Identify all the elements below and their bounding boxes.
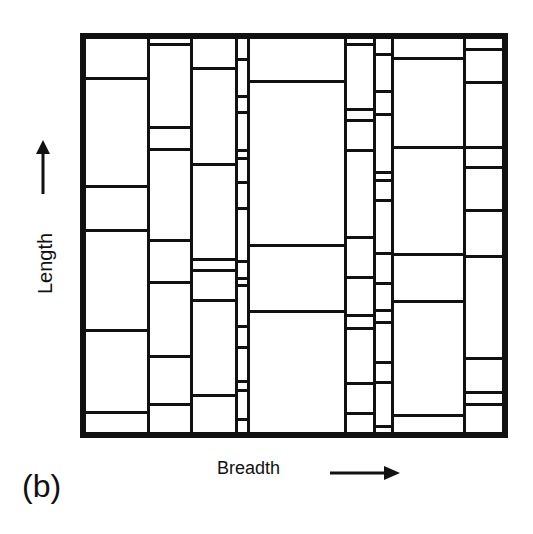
rectangle-boundary <box>191 67 236 70</box>
rectangle-boundary <box>374 171 392 174</box>
rectangle-boundary <box>248 310 345 313</box>
rectangle-boundary <box>248 80 345 83</box>
strip-packing-diagram: Length Breadth (b) <box>0 0 533 534</box>
rectangle-boundary <box>374 309 392 312</box>
rectangle-boundary <box>86 77 148 80</box>
column-divider <box>190 39 193 432</box>
rectangle-boundary <box>148 403 191 406</box>
rectangle-boundary <box>236 111 248 114</box>
rectangle-boundary <box>464 166 502 169</box>
rectangle-boundary <box>236 149 248 152</box>
arrow-right-icon <box>330 466 400 480</box>
rectangle-boundary <box>236 418 248 421</box>
rectangle-boundary <box>86 329 148 332</box>
rectangle-boundary <box>236 325 248 328</box>
rectangle-boundary <box>148 126 191 129</box>
rectangle-boundary <box>345 382 374 385</box>
outer-frame <box>80 33 508 438</box>
rectangle-boundary <box>392 57 464 60</box>
rectangle-boundary <box>148 281 191 284</box>
rectangle-boundary <box>374 90 392 93</box>
rectangle-boundary <box>464 146 502 149</box>
rectangle-boundary <box>345 412 374 415</box>
arrow-up-icon <box>36 140 50 196</box>
rectangle-boundary <box>148 239 191 242</box>
length-axis-label: Length <box>34 229 57 299</box>
rectangle-boundary <box>148 355 191 358</box>
rectangle-boundary <box>86 411 148 414</box>
rectangle-boundary <box>374 425 392 428</box>
rectangle-boundary <box>374 282 392 285</box>
rectangle-boundary <box>236 207 248 210</box>
rectangle-boundary <box>374 381 392 384</box>
rectangle-boundary <box>191 299 236 302</box>
rectangle-boundary <box>345 108 374 111</box>
rectangle-boundary <box>236 58 248 61</box>
rectangle-boundary <box>191 258 236 261</box>
rectangle-boundary <box>392 146 464 149</box>
rectangle-boundary <box>236 380 248 383</box>
rectangle-boundary <box>464 391 502 394</box>
rectangle-boundary <box>464 48 502 51</box>
rectangle-boundary <box>86 185 148 188</box>
column-divider <box>147 39 150 432</box>
column-divider <box>463 39 466 432</box>
rectangle-boundary <box>392 414 464 417</box>
rectangle-boundary <box>191 394 236 397</box>
rectangle-boundary <box>392 300 464 303</box>
rectangle-boundary <box>345 236 374 239</box>
rectangle-boundary <box>345 149 374 152</box>
rectangle-boundary <box>464 81 502 84</box>
rectangle-boundary <box>345 314 374 317</box>
rectangle-boundary <box>374 53 392 56</box>
rectangle-boundary <box>236 260 248 263</box>
rectangle-boundary <box>248 244 345 247</box>
rectangle-boundary <box>374 252 392 255</box>
rectangle-boundary <box>374 113 392 116</box>
rectangle-boundary <box>191 163 236 166</box>
rectangle-boundary <box>236 277 248 280</box>
rectangle-boundary <box>374 199 392 202</box>
rectangle-boundary <box>86 229 148 232</box>
rectangle-boundary <box>464 209 502 212</box>
rectangle-boundary <box>345 119 374 122</box>
rectangle-boundary <box>345 276 374 279</box>
rectangle-boundary <box>191 269 236 272</box>
panel-label: (b) <box>22 468 61 505</box>
rectangle-boundary <box>345 327 374 330</box>
rectangle-boundary <box>345 43 374 46</box>
rectangle-boundary <box>464 357 502 360</box>
rectangle-boundary <box>392 253 464 256</box>
rectangle-boundary <box>236 157 248 160</box>
rectangle-boundary <box>236 389 248 392</box>
breadth-axis-label: Breadth <box>217 458 280 479</box>
rectangle-boundary <box>236 181 248 184</box>
rectangle-boundary <box>464 255 502 258</box>
column-divider <box>391 39 394 432</box>
column-divider <box>235 39 238 432</box>
rectangle-boundary <box>374 179 392 182</box>
rectangle-boundary <box>236 346 248 349</box>
column-divider <box>247 39 250 432</box>
rectangle-boundary <box>374 321 392 324</box>
rectangle-boundary <box>148 148 191 151</box>
rectangle-boundary <box>148 43 191 46</box>
rectangle-boundary <box>464 403 502 406</box>
rectangle-boundary <box>236 95 248 98</box>
rectangle-boundary <box>374 361 392 364</box>
rectangle-boundary <box>236 284 248 287</box>
